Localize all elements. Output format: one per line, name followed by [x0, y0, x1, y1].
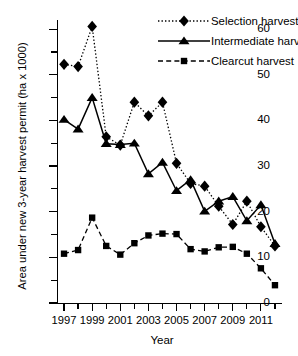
data-point	[157, 158, 168, 166]
y-tick-20	[49, 211, 57, 212]
data-point	[228, 219, 238, 230]
y-tick-30	[49, 165, 57, 166]
data-point	[173, 231, 179, 237]
series-line	[64, 218, 275, 286]
data-point	[230, 244, 236, 250]
legend-marker-triangle-icon	[157, 32, 211, 50]
x-tick-2003	[148, 304, 149, 311]
data-point	[144, 110, 154, 121]
data-point	[61, 251, 67, 257]
data-point	[216, 244, 222, 250]
legend-label: Clearcut harvest	[211, 55, 294, 67]
data-point	[258, 265, 264, 271]
x-tick-2008	[218, 304, 219, 309]
data-point	[73, 61, 83, 72]
y-tick-50	[49, 74, 57, 75]
data-point	[242, 196, 252, 207]
data-point	[185, 175, 196, 183]
x-tick-2000	[106, 304, 107, 309]
x-tick-1999	[92, 304, 93, 311]
x-tick-2004	[162, 304, 163, 309]
data-point	[227, 192, 238, 200]
data-point	[101, 139, 112, 147]
series-intermediate-harvest	[59, 93, 281, 247]
x-axis-title-text: Year	[150, 334, 173, 346]
data-point	[272, 282, 278, 288]
data-point	[59, 115, 70, 123]
chart-figure: Area under new 3-year harvest permit (ha…	[0, 0, 298, 356]
y-tick-60	[49, 29, 57, 30]
x-tick-2007	[204, 304, 205, 311]
x-tick-1997	[63, 304, 64, 311]
legend-marker-diamond-icon	[157, 12, 211, 30]
y-tick-0	[49, 302, 57, 303]
chart-legend: Selection harvestIntermediate harvestCle…	[157, 11, 298, 71]
x-tick-1998	[77, 304, 78, 309]
y-tick-40	[49, 120, 57, 121]
data-point	[75, 247, 81, 253]
y-tick-10	[49, 257, 57, 258]
legend-item-selection-harvest: Selection harvest	[157, 11, 298, 31]
x-tick-2010	[246, 304, 247, 309]
data-point	[244, 251, 250, 257]
x-tick-2006	[190, 304, 191, 309]
legend-label: Intermediate harvest	[211, 35, 298, 47]
x-tick-2005	[176, 304, 177, 311]
data-point	[87, 21, 97, 32]
y-axis-title: Area under new 3-year harvest permit (ha…	[16, 16, 28, 316]
series-clearcut-harvest	[61, 214, 278, 288]
x-tick-2002	[134, 304, 135, 309]
data-point	[131, 240, 137, 246]
x-tick-2011	[260, 304, 261, 311]
data-point	[59, 59, 69, 70]
data-point	[103, 243, 109, 249]
legend-item-clearcut-harvest: Clearcut harvest	[157, 51, 298, 71]
data-point	[145, 232, 151, 238]
data-point	[117, 251, 123, 257]
legend-label: Selection harvest	[211, 15, 298, 27]
data-point	[129, 139, 140, 147]
x-tick-2009	[232, 304, 233, 311]
x-tick-label-2011: 2011	[241, 314, 281, 326]
data-point	[187, 246, 193, 252]
legend-marker-square-icon	[157, 52, 211, 70]
data-point	[201, 248, 207, 254]
x-tick-2001	[120, 304, 121, 311]
data-point	[159, 230, 165, 236]
x-axis-title: Year	[0, 334, 298, 346]
data-point	[87, 93, 98, 101]
data-point	[255, 200, 266, 208]
legend-item-intermediate-harvest: Intermediate harvest	[157, 31, 298, 51]
x-tick-2012	[274, 304, 275, 309]
data-point	[89, 214, 95, 220]
